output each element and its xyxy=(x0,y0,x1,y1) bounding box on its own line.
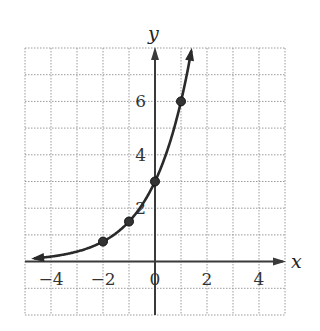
x-axis-label: x xyxy=(291,250,302,272)
data-point xyxy=(125,217,134,226)
x-tick-label: −4 xyxy=(38,269,63,289)
exponential-graph: −4−2024246 x y xyxy=(0,0,320,331)
x-tick-label: 0 xyxy=(150,269,161,289)
y-tick-label: 6 xyxy=(135,91,146,111)
x-tick-label: 4 xyxy=(254,269,265,289)
x-tick-label: 2 xyxy=(202,269,213,289)
y-axis-arrow-icon xyxy=(151,47,159,60)
x-tick-label: −2 xyxy=(90,269,115,289)
data-point xyxy=(99,237,108,246)
data-point xyxy=(177,97,186,106)
data-point xyxy=(151,177,160,186)
curve-arrow-up-icon xyxy=(185,48,194,62)
y-tick-label: 4 xyxy=(135,145,146,165)
y-axis-label: y xyxy=(147,22,159,44)
x-axis-arrow-icon xyxy=(273,258,286,266)
marked-points xyxy=(99,97,186,246)
